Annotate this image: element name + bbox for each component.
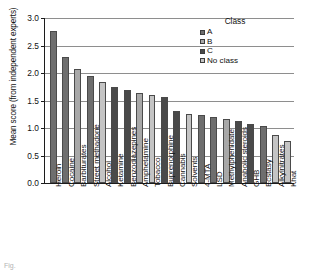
x-axis-tick-labels: HeroinCocaineBarbituratesStreet methadon… [44,185,294,271]
legend-item-label: A [207,28,212,36]
y-tick-mark [41,128,45,129]
y-tick-label: 1.5 [27,96,39,104]
legend-title: Class [206,17,264,26]
y-axis-title: Mean score (from independent experts) [9,2,18,152]
x-tick-label: 4-MTA [204,164,212,187]
y-axis-title-container: Mean score (from independent experts) [0,0,16,190]
y-tick-mark [41,73,45,74]
x-tick-label: Methylphenidate [228,129,236,187]
x-tick-label: Street methadone [93,124,101,187]
y-tick-mark [41,183,45,184]
x-tick-label: Anabolic steroids [241,127,249,187]
x-tick-label: Amphetamine [142,138,150,187]
y-tick-label: 0.5 [27,151,39,159]
legend-item: A [200,28,270,38]
legend-swatch-icon [200,30,205,35]
y-tick-label: 3.0 [27,14,39,22]
legend-swatch-icon [200,49,205,54]
figure-bar-chart: Mean score (from independent experts) 0.… [0,0,313,273]
x-tick-label: Barbiturates [80,145,88,187]
legend-swatch-icon [200,58,205,63]
x-tick-label: Tobacco [154,158,162,187]
y-tick-mark [41,101,45,102]
x-tick-label: Solvents [191,157,199,187]
y-tick-mark [41,156,45,157]
legend-entries: ABCNo class [200,28,270,66]
x-tick-label: Cannabis [179,154,187,187]
x-tick-label: Alcohol [105,161,113,187]
x-tick-label: Ecstasy [265,159,273,187]
bar [50,31,57,183]
y-tick-label: 2.5 [27,41,39,49]
legend-item: B [200,37,270,47]
legend-item-label: No class [207,57,238,65]
x-tick-label: Khat [290,171,298,187]
x-tick-label: Benzodiazepines [130,127,138,187]
x-tick-label: Heroin [55,164,63,187]
legend-item-label: B [207,38,212,46]
legend-item-label: C [207,47,213,55]
x-tick-label: GHB [253,170,261,187]
legend-item: C [200,47,270,57]
x-tick-label: Cocaine [68,158,76,187]
figure-caption: Fig. [4,262,16,269]
legend-swatch-icon [200,39,205,44]
x-tick-label: Alkylnitrates [278,145,286,187]
x-tick-label: Ketamine [117,154,125,187]
y-tick-label: 1.0 [27,124,39,132]
y-tick-mark [41,18,45,19]
legend: Class ABCNo class [200,17,270,66]
x-tick-label: LSD [216,172,224,187]
legend-item: No class [200,56,270,66]
y-tick-label: 2.0 [27,69,39,77]
y-tick-label: 0.0 [27,179,39,187]
y-tick-mark [41,46,45,47]
x-tick-label: Buprenorphine [167,135,175,187]
